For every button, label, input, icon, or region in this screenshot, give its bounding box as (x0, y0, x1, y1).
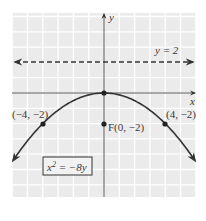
x-axis-label: x (189, 95, 195, 107)
point-right-label: (4, −2) (166, 108, 196, 121)
parabola-figure: x y y = 2 F(0, −2) (−4, −2) (4, −2) x2 =… (0, 0, 206, 221)
vertex-point (101, 90, 106, 95)
point-right (162, 121, 167, 126)
point-left (40, 121, 45, 126)
focus-label: F(0, −2) (108, 121, 144, 134)
point-left-label: (−4, −2) (12, 108, 49, 121)
y-axis-label: y (108, 11, 114, 23)
focus-point (101, 121, 106, 126)
directrix-label: y = 2 (154, 44, 179, 56)
